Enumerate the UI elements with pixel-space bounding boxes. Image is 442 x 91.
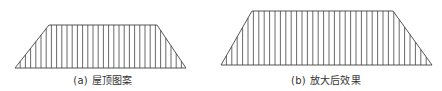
figure-canvas xyxy=(0,0,442,91)
panel-a-roof-pattern xyxy=(15,25,186,68)
trapezoid-outline xyxy=(221,11,432,65)
caption-b: (b) 放大后效果 xyxy=(291,72,361,87)
panel-b-enlarged-effect xyxy=(221,11,432,65)
caption-a: (a) 屋顶图案 xyxy=(73,72,133,87)
